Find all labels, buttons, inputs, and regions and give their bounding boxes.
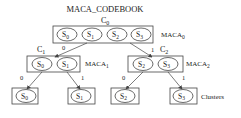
left-node-label: C1 xyxy=(37,45,45,55)
clusters-label: Clusters xyxy=(201,93,224,101)
svg-text:S2: S2 xyxy=(112,30,119,40)
root-maca-box: S0 S1 S2 S3 xyxy=(53,26,153,43)
root-maca-label: MACA0 xyxy=(161,31,185,40)
root-state-s0: S0 xyxy=(57,28,77,41)
right-maca-box: S2 S3 xyxy=(128,56,183,72)
edge-right-1 xyxy=(168,72,182,89)
svg-text:S0: S0 xyxy=(62,30,69,40)
edge-left-0-bit: 0 xyxy=(20,74,23,81)
edge-right-0-bit: 0 xyxy=(122,74,125,81)
svg-text:S2: S2 xyxy=(120,92,127,102)
svg-text:S3: S3 xyxy=(136,30,143,40)
root-state-s1: S1 xyxy=(82,28,102,41)
right-node-label: C2 xyxy=(160,45,168,55)
edge-root-left xyxy=(55,43,87,57)
diagram-title: MACA_CODEBOOK xyxy=(67,4,145,14)
cluster-leaf-s0: S0 xyxy=(12,88,38,104)
edge-root-right-bit: 1 xyxy=(151,46,154,53)
right-state-s3: S3 xyxy=(158,58,178,71)
svg-text:S0: S0 xyxy=(21,92,28,102)
root-state-s2: S2 xyxy=(107,28,127,41)
edge-root-left-bit: 0 xyxy=(62,44,65,51)
root-node-label: C0 xyxy=(101,16,109,26)
cluster-leaf-s2: S2 xyxy=(111,88,139,104)
cluster-leaf-s3: S3 xyxy=(170,88,197,104)
svg-text:S1: S1 xyxy=(87,30,94,40)
right-state-s2: S2 xyxy=(133,58,153,71)
svg-text:S3: S3 xyxy=(178,92,185,102)
left-maca-box: S0 S1 xyxy=(27,56,80,72)
left-maca-label: MACA1 xyxy=(85,60,109,69)
edge-left-1-bit: 1 xyxy=(81,74,84,81)
svg-text:S0: S0 xyxy=(37,60,44,70)
left-state-s1: S1 xyxy=(57,58,77,71)
edge-left-0 xyxy=(27,72,42,89)
cluster-leaf-s1: S1 xyxy=(68,88,95,104)
left-state-s0: S0 xyxy=(32,58,52,71)
svg-text:S1: S1 xyxy=(76,92,83,102)
svg-text:S1: S1 xyxy=(62,60,69,70)
maca-tree-diagram: MACA_CODEBOOK C0 S0 S1 S2 S3 MACA0 0 1 C… xyxy=(0,0,241,118)
edge-left-1 xyxy=(67,72,80,89)
svg-text:S2: S2 xyxy=(138,60,145,70)
edge-right-0 xyxy=(126,72,143,89)
svg-text:S3: S3 xyxy=(163,60,170,70)
edge-root-right xyxy=(130,43,152,57)
right-maca-label: MACA2 xyxy=(186,60,210,69)
root-state-s3: S3 xyxy=(131,28,151,41)
edge-right-1-bit: 1 xyxy=(182,74,185,81)
